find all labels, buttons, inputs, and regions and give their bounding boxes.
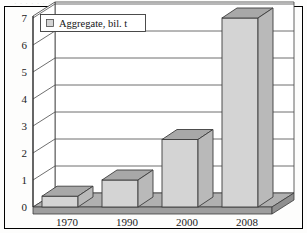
x-tick-2008: 2008 — [236, 216, 259, 228]
x-tick-1970: 1970 — [56, 216, 79, 228]
legend-swatch-aggregate — [47, 20, 54, 27]
chart-legend: Aggregate, bil. t — [41, 15, 146, 32]
y-tick-7: 7 — [22, 12, 28, 24]
y-tick-6: 6 — [22, 39, 28, 51]
y-tick-2: 2 — [22, 147, 28, 159]
chart-figure: · · · · · · · · · · · · — [0, 0, 307, 233]
bar-2008 — [222, 8, 273, 207]
bar-2000 — [162, 130, 213, 208]
bar-1990 — [102, 170, 153, 207]
y-tick-1: 1 — [22, 174, 28, 186]
y-tick-4: 4 — [22, 93, 28, 105]
plot-floor-lip — [33, 207, 272, 214]
y-tick-0: 0 — [22, 201, 28, 213]
x-tick-1990: 1990 — [116, 216, 139, 228]
x-axis-tick-labels: 1970 1990 2000 2008 — [56, 216, 259, 228]
y-tick-3: 3 — [22, 120, 28, 132]
y-axis-tick-labels: 0 1 2 3 4 5 6 7 — [22, 12, 28, 213]
legend-label-aggregate: Aggregate, bil. t — [59, 18, 127, 29]
x-tick-2000: 2000 — [176, 216, 199, 228]
bar-chart-svg: 0 1 2 3 4 5 6 7 1970 1990 2000 2008 Aggr… — [0, 0, 307, 233]
y-tick-5: 5 — [22, 66, 28, 78]
